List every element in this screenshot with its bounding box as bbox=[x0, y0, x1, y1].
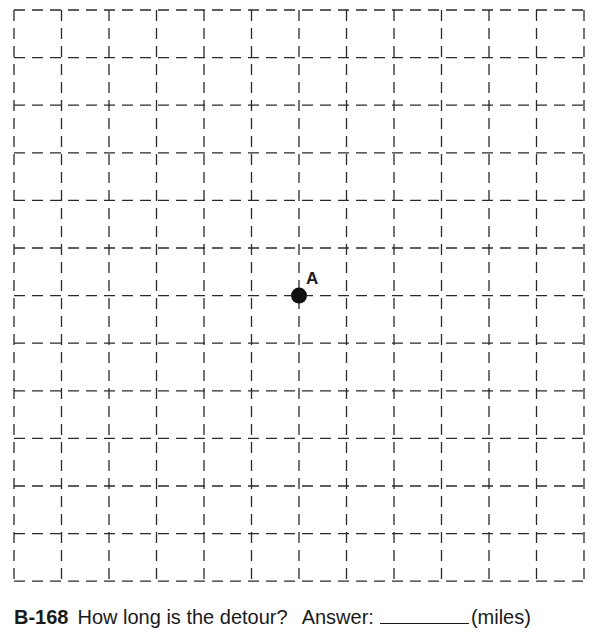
answer-label: Answer: bbox=[302, 606, 374, 628]
problem-caption: B-168How long is the detour?Answer:(mile… bbox=[14, 606, 531, 629]
point-a-dot bbox=[291, 288, 307, 304]
problem-number: B-168 bbox=[14, 606, 68, 628]
answer-blank[interactable] bbox=[380, 607, 469, 624]
point-a-label: A bbox=[306, 269, 318, 289]
problem-question: How long is the detour? bbox=[77, 606, 287, 628]
dashed-grid bbox=[0, 0, 593, 600]
answer-unit: (miles) bbox=[471, 606, 531, 628]
